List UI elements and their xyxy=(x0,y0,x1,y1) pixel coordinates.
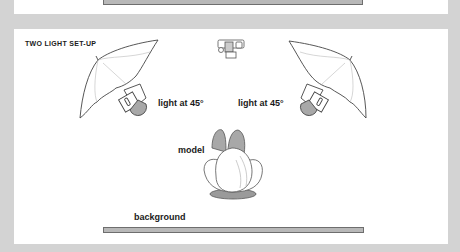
background-bar xyxy=(103,227,364,233)
model-label: model xyxy=(178,145,205,155)
right-light-label: light at 45° xyxy=(238,98,284,108)
camera-icon xyxy=(218,40,244,58)
left-umbrella-light-icon xyxy=(80,40,158,118)
right-umbrella-light-icon xyxy=(289,41,366,118)
model-icon xyxy=(204,130,262,199)
diagram-illustration xyxy=(0,0,460,252)
background-label: background xyxy=(134,212,186,222)
left-light-label: light at 45° xyxy=(158,98,204,108)
